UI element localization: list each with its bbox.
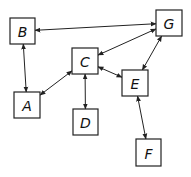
- edge-b-a: [23, 44, 26, 92]
- edge-e-f: [138, 96, 146, 139]
- node-label: B: [18, 24, 28, 40]
- edge-g-e: [142, 36, 161, 70]
- nodes-layer: ABCDEFG: [10, 10, 182, 166]
- node-c: C: [72, 48, 98, 74]
- node-label: D: [80, 115, 91, 131]
- node-label: F: [144, 146, 153, 162]
- node-g: G: [156, 10, 182, 36]
- node-e: E: [122, 70, 148, 96]
- node-a: A: [14, 92, 40, 118]
- node-label: A: [21, 98, 32, 114]
- node-label: E: [131, 76, 140, 92]
- edge-c-e: [98, 67, 122, 78]
- node-b: B: [10, 18, 35, 44]
- network-diagram: ABCDEFG: [0, 0, 191, 177]
- node-f: F: [136, 139, 161, 166]
- node-label: C: [80, 54, 90, 70]
- edge-c-a: [40, 71, 72, 95]
- edge-g-c: [98, 29, 156, 55]
- edge-b-g: [35, 24, 156, 31]
- node-label: G: [164, 16, 175, 32]
- node-d: D: [73, 109, 98, 135]
